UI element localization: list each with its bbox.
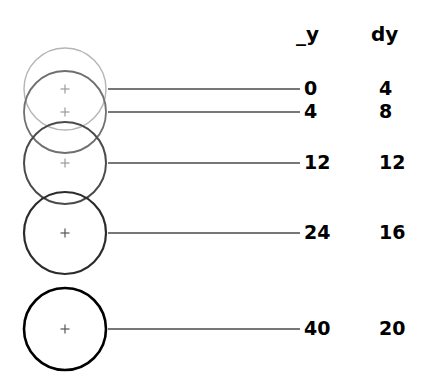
cell-dy-value: 20 — [379, 319, 423, 338]
cell-dy-value: 8 — [379, 102, 423, 121]
center-plus-marker — [61, 108, 70, 117]
column-header-y: _y — [296, 22, 319, 46]
cell-y-value: 4 — [304, 102, 348, 121]
cell-dy-value: 12 — [379, 153, 423, 172]
column-header-dy: dy — [371, 22, 398, 46]
cell-y-value: 12 — [304, 153, 348, 172]
center-plus-marker — [61, 159, 70, 168]
center-plus-marker — [61, 229, 70, 238]
cell-dy-value: 16 — [379, 223, 423, 242]
cell-y-value: 24 — [304, 223, 348, 242]
cell-y-value: 40 — [304, 319, 348, 338]
circles-diagram — [0, 0, 426, 384]
figure-canvas: _y dy 0448121224164020 — [0, 0, 426, 384]
center-plus-marker — [61, 325, 70, 334]
cell-dy-value: 4 — [379, 79, 423, 98]
circle-group — [24, 48, 106, 370]
leader-line-group — [108, 89, 300, 329]
cell-y-value: 0 — [304, 79, 348, 98]
center-plus-marker — [61, 85, 70, 94]
